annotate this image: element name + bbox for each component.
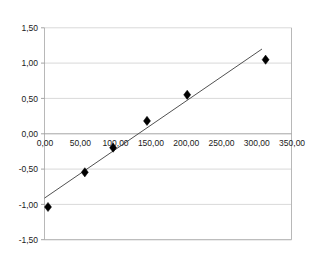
y-tick-label-minus-1-50: -1,50 [19, 235, 39, 245]
y-axis-labels: 1,50 1,00 0,50 0,00 -0,50 -1,00 -1,50 [19, 23, 39, 245]
x-tick-label-150: 150,00 [138, 138, 164, 148]
y-tick-label-1-50: 1,50 [21, 23, 38, 33]
x-tick-label-50: 50,00 [70, 138, 92, 148]
y-axis-tick-marks [41, 28, 45, 240]
y-tick-label-minus-0-50: -0,50 [19, 164, 39, 174]
chart-container: 1,50 1,00 0,50 0,00 -0,50 -1,00 -1,50 0,… [0, 0, 315, 255]
y-tick-label-0-50: 0,50 [21, 94, 38, 104]
x-tick-label-350: 350,00 [279, 138, 305, 148]
scatter-plot: 1,50 1,00 0,50 0,00 -0,50 -1,00 -1,50 0,… [0, 0, 315, 255]
y-tick-label-1-00: 1,00 [21, 58, 38, 68]
x-tick-label-0: 0,00 [37, 138, 54, 148]
x-tick-label-200: 200,00 [173, 138, 199, 148]
x-tick-label-250: 250,00 [209, 138, 235, 148]
x-tick-label-300: 300,00 [244, 138, 270, 148]
y-tick-label-minus-1-00: -1,00 [19, 200, 39, 210]
